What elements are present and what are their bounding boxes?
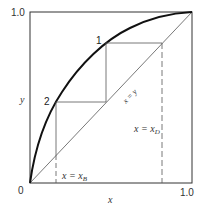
x-max-label: 1.0 (180, 187, 194, 198)
distillate-label-lhs: x = x (133, 123, 155, 134)
diagonal-line (30, 12, 192, 183)
origin-label: 0 (18, 185, 24, 196)
point-label-2: 2 (44, 96, 50, 107)
y-max-label: 1.0 (11, 7, 25, 18)
x-axis-label: x (107, 194, 113, 205)
mccabe-thiele-diagram: 1.0 0 1.0 y x 1 2 x = y x = xB x = xD (0, 0, 208, 211)
diagonal-label: x = y (120, 87, 139, 106)
bottoms-label-sub: B (83, 175, 88, 183)
y-axis-label: y (19, 94, 25, 105)
bottoms-label: x = xB (61, 170, 88, 183)
bottoms-label-lhs: x = x (61, 170, 83, 181)
point-label-1: 1 (96, 35, 102, 46)
distillate-label: x = xD (133, 123, 160, 136)
distillate-label-sub: D (154, 128, 160, 136)
